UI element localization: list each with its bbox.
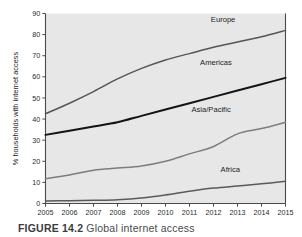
- x-tick-label: 2014: [254, 208, 270, 217]
- y-axis-title: % households with internet access: [11, 52, 20, 166]
- figure-caption-text: Global internet access: [86, 222, 194, 234]
- y-tick-label: 40: [32, 115, 40, 124]
- x-tick-label: 2011: [182, 208, 197, 217]
- plot-background: [46, 14, 286, 204]
- y-tick-label: 50: [32, 94, 40, 103]
- y-tick-label: 20: [32, 157, 40, 166]
- x-tick-label: 2009: [134, 208, 150, 217]
- y-tick-label: 30: [32, 136, 40, 145]
- x-axis: 2005200620072008200920102011201220132014…: [38, 204, 294, 217]
- x-tick-label: 2008: [110, 208, 126, 217]
- series-label-africa: Africa: [221, 165, 241, 174]
- figure-number: FIGURE 14.2: [18, 222, 83, 234]
- x-tick-label: 2015: [278, 208, 294, 217]
- y-tick-label: 10: [32, 178, 40, 187]
- x-tick-label: 2006: [62, 208, 78, 217]
- x-tick-label: 2013: [230, 208, 246, 217]
- y-axis-title-text: % households with internet access: [11, 52, 20, 166]
- y-tick-label: 60: [32, 72, 40, 81]
- x-tick-label: 2007: [86, 208, 102, 217]
- series-label-asia-pacific: Asia/Pacific: [191, 105, 230, 114]
- y-tick-label: 90: [32, 9, 40, 18]
- global-internet-access-line-chart: 0102030405060708090 20052006200720082009…: [0, 0, 302, 237]
- x-tick-label: 2012: [206, 208, 222, 217]
- series-label-americas: Americas: [200, 58, 232, 67]
- figure-caption: FIGURE 14.2 Global internet access: [18, 222, 302, 234]
- x-tick-label: 2005: [38, 208, 54, 217]
- figure-container: 0102030405060708090 20052006200720082009…: [0, 0, 302, 237]
- x-tick-label: 2010: [158, 208, 174, 217]
- series-label-europe: Europe: [211, 15, 236, 24]
- y-tick-label: 70: [32, 51, 40, 60]
- y-tick-label: 80: [32, 30, 40, 39]
